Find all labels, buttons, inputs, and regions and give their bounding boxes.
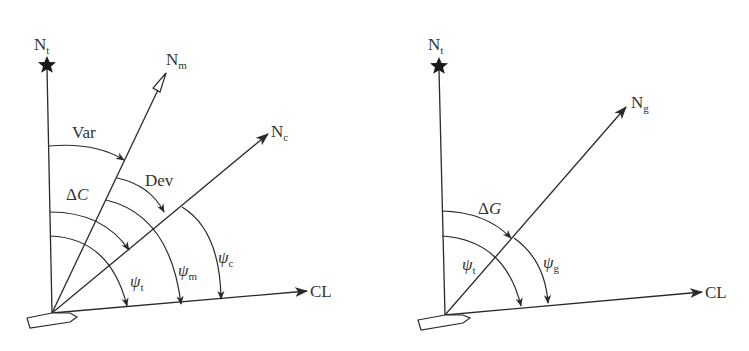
true-north-line (439, 70, 445, 315)
compass-heading-arc (182, 207, 221, 299)
ship-icon (27, 313, 77, 328)
gyro-heading-label: ψg (543, 253, 560, 274)
true-north-line (47, 68, 52, 313)
gyro-error-label: ΔG (478, 199, 501, 218)
compass-north-line (52, 134, 268, 313)
compass-needle-icon (153, 73, 166, 92)
true-heading-arc (50, 236, 127, 306)
centerline-label: CL (310, 282, 332, 301)
true-heading-label: ψt (130, 272, 144, 293)
gyro-north-line (445, 107, 626, 315)
magnetic-north-label: Nm (166, 50, 187, 71)
true-heading-label: ψt (462, 255, 476, 276)
compass-heading-label: ψc (218, 248, 234, 269)
compass-north-label: Nc (271, 122, 288, 143)
right-diagram-gyro: Nt Ng CL ΔG ψt ψg (418, 35, 727, 330)
variation-arc (49, 145, 124, 160)
left-diagram-compass: Nt Nm Nc CL Var Dev ΔC ψt ψm ψc (27, 35, 332, 328)
true-heading-arc (442, 236, 521, 306)
true-north-label: Nt (34, 35, 49, 56)
true-north-label: Nt (428, 35, 443, 56)
compass-error-arc (50, 212, 129, 250)
ship-icon (418, 315, 470, 330)
gyro-north-label: Ng (631, 93, 649, 114)
heading-diagram-canvas: Nt Nm Nc CL Var Dev ΔC ψt ψm ψc (0, 0, 749, 351)
deviation-label: Dev (145, 171, 174, 190)
variation-label: Var (72, 123, 96, 142)
centerline-label: CL (705, 283, 727, 302)
magnetic-heading-label: ψm (178, 261, 198, 282)
compass-error-label: ΔC (66, 185, 89, 204)
centerline (445, 292, 702, 315)
